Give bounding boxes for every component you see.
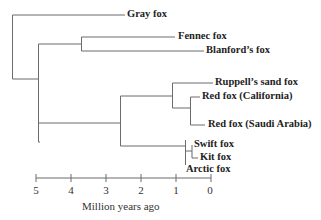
axis-title: Million years ago xyxy=(82,201,160,212)
taxon-ruppells-sand-fox: Ruppell’s sand fox xyxy=(215,77,298,88)
taxon-red-fox-saudi-arabia: Red fox (Saudi Arabia) xyxy=(208,119,312,130)
taxon-red-fox-california: Red fox (California) xyxy=(202,91,292,102)
taxon-arctic-fox: Arctic fox xyxy=(186,164,230,175)
taxon-swift-fox: Swift fox xyxy=(194,139,234,150)
axis-tick-4: 4 xyxy=(68,185,74,196)
taxon-kit-fox: Kit fox xyxy=(200,152,231,163)
axis-tick-3: 3 xyxy=(103,185,109,196)
axis-tick-5: 5 xyxy=(33,185,39,196)
taxon-gray-fox: Gray fox xyxy=(127,9,167,20)
root-branch xyxy=(13,15,39,79)
tree-diagram xyxy=(0,0,321,220)
taxon-blanfords-fox: Blanford’s fox xyxy=(206,45,270,56)
axis-tick-2: 2 xyxy=(138,185,144,196)
taxon-fennec-fox: Fennec fox xyxy=(178,31,227,42)
axis-tick-1: 1 xyxy=(173,185,179,196)
swift-kit-node xyxy=(186,145,193,158)
axis-tick-0: 0 xyxy=(207,185,213,196)
